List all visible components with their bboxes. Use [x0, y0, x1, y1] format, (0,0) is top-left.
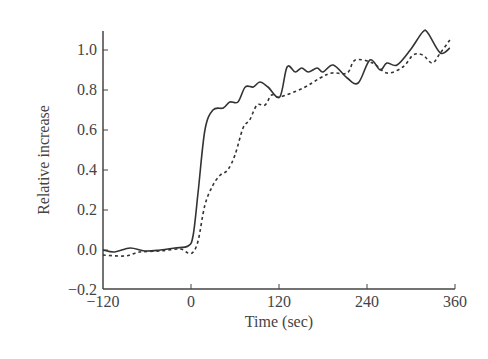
x-axis-label: Time (sec) [245, 313, 313, 331]
y-axis-label: Relative increase [35, 105, 52, 215]
series-group [103, 30, 450, 256]
series-line-dashed [103, 40, 450, 256]
y-tick-label: 1.0 [77, 41, 97, 58]
series-line-solid [103, 30, 450, 252]
y-tick-label: 0.4 [77, 161, 97, 178]
y-tick-label: 0.6 [77, 121, 97, 138]
x-tick-label: −120 [86, 293, 119, 310]
line-chart: −0.20.00.20.40.60.81.0−1200120240360 Rel… [0, 0, 488, 359]
x-tick-label: 0 [187, 293, 195, 310]
x-tick-label: 240 [355, 293, 379, 310]
y-tick-label: 0.2 [77, 201, 97, 218]
axes: −0.20.00.20.40.60.81.0−1200120240360 [68, 31, 467, 310]
y-tick-label: 0.8 [77, 81, 97, 98]
x-tick-label: 360 [443, 293, 467, 310]
x-tick-label: 120 [267, 293, 291, 310]
y-tick-label: 0.0 [77, 241, 97, 258]
